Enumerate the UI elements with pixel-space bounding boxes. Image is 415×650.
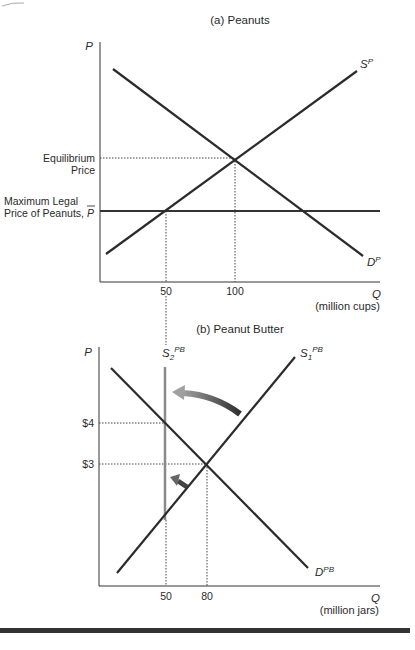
panel-b-peanut-butter: (b) Peanut Butter P Q (million jars) S2P… (82, 323, 380, 616)
panel-a-tick-100: 100 (226, 285, 244, 297)
panel-b-tick-80: 80 (201, 590, 213, 602)
panel-a-max-label-1: Maximum Legal (4, 195, 78, 207)
panel-a-tick-50: 50 (160, 285, 172, 297)
panel-b-x-label: Q (371, 592, 380, 604)
panel-b-price-4: $4 (82, 417, 94, 429)
panel-b-small-shift-arrow-icon (170, 474, 187, 487)
panel-b-x-units: (million jars) (320, 604, 379, 616)
panel-a-max-label-2: Price of Peanuts, (4, 207, 84, 219)
panel-a-demand-label: DP (367, 255, 381, 268)
panel-b-demand-label: DPB (315, 565, 335, 578)
panel-a-eq-label-1: Equilibrium (43, 152, 95, 164)
panel-a-x-units: (million cups) (315, 300, 380, 312)
panel-a-max-symbol: P (87, 207, 94, 219)
page-curl-mark (2, 3, 24, 6)
panel-b-s1-label: S1PB (300, 345, 323, 362)
panel-a-supply-label: SP (360, 57, 374, 70)
panel-b-y-label: P (84, 346, 92, 358)
panel-a-y-label: P (85, 40, 93, 52)
panel-a-supply-curve (106, 71, 357, 254)
panel-a-title: (a) Peanuts (210, 14, 270, 26)
panel-b-title: (b) Peanut Butter (196, 323, 284, 335)
panel-b-price-3: $3 (82, 458, 94, 470)
panel-a-x-label: Q (372, 288, 381, 300)
bottom-rule (0, 628, 410, 633)
panel-b-s2-label: S2PB (162, 345, 185, 362)
panel-a-peanuts: (a) Peanuts P Q (million cups) SP DP Equ… (4, 14, 381, 345)
figure: (a) Peanuts P Q (million cups) SP DP Equ… (0, 0, 415, 650)
panel-b-tick-50: 50 (160, 590, 172, 602)
panel-b-big-shift-arrow-icon (172, 385, 240, 414)
panel-a-demand-curve (113, 69, 363, 256)
panel-a-eq-label-2: Price (71, 164, 95, 176)
